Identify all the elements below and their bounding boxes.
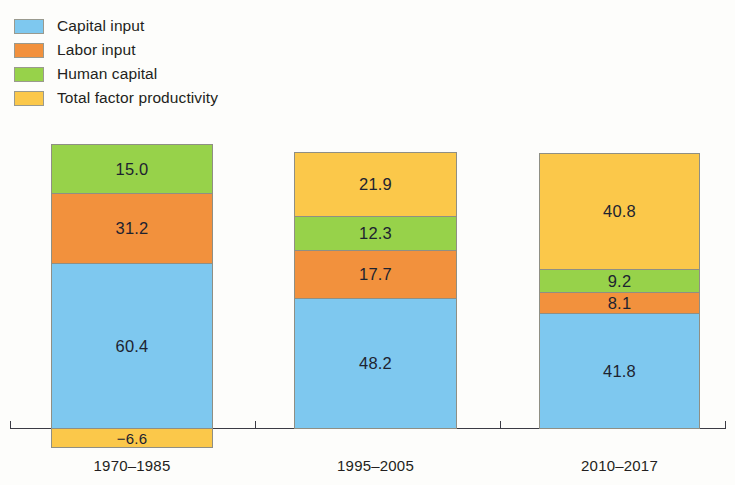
bar-group-1970-1985: 15.0 31.2 60.4 −6.6 (51, 144, 213, 428)
stacked-bar-chart: 15.0 31.2 60.4 −6.6 21.9 12.3 17.7 48.2 … (0, 0, 735, 485)
bar-group-2010-2017: 40.8 9.2 8.1 41.8 (539, 153, 700, 428)
bar-segment-human-capital: 15.0 (51, 144, 213, 194)
category-label-1995-2005: 1995–2005 (294, 457, 457, 474)
bar-value-human-capital: 12.3 (359, 225, 392, 242)
bar-value-total-factor-productivity: −6.6 (117, 431, 147, 446)
bar-segment-capital-input: 41.8 (539, 313, 700, 429)
bar-value-human-capital: 15.0 (116, 161, 149, 178)
category-label-2010-2017: 2010–2017 (539, 457, 700, 474)
category-label-1970-1985: 1970–1985 (51, 457, 213, 474)
bar-segment-capital-input: 60.4 (51, 263, 213, 429)
bar-group-1995-2005: 21.9 12.3 17.7 48.2 (294, 152, 457, 428)
bar-value-labor-input: 31.2 (116, 220, 149, 237)
bar-value-total-factor-productivity: 40.8 (603, 203, 636, 220)
bar-segment-labor-input: 31.2 (51, 193, 213, 264)
bar-segment-human-capital: 12.3 (294, 216, 457, 251)
bar-segment-labor-input: 17.7 (294, 250, 457, 299)
bar-segment-labor-input: 8.1 (539, 292, 700, 314)
bar-segment-capital-input: 48.2 (294, 298, 457, 429)
bar-segment-total-factor-productivity: 40.8 (539, 153, 700, 270)
bar-value-capital-input: 60.4 (116, 338, 149, 355)
axis-tick-mid-1 (255, 421, 256, 428)
bar-segment-total-factor-productivity-negative: −6.6 (51, 428, 213, 448)
bar-value-total-factor-productivity: 21.9 (359, 176, 392, 193)
bar-value-labor-input: 17.7 (359, 266, 392, 283)
bar-segment-total-factor-productivity: 21.9 (294, 152, 457, 217)
bar-value-capital-input: 41.8 (603, 363, 636, 380)
bar-value-labor-input: 8.1 (608, 295, 632, 312)
axis-tick-left (10, 421, 11, 428)
bar-value-capital-input: 48.2 (359, 355, 392, 372)
axis-tick-mid-2 (500, 421, 501, 428)
bar-value-human-capital: 9.2 (608, 273, 632, 290)
axis-tick-right (725, 421, 726, 428)
bar-segment-human-capital: 9.2 (539, 269, 700, 293)
